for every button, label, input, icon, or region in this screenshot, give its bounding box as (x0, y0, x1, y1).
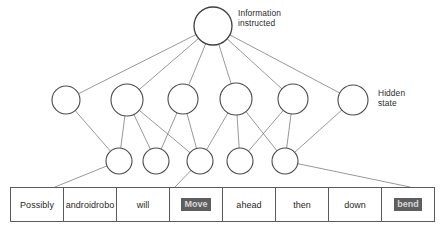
word-text: down (344, 200, 366, 210)
information-instructed-layer-node-1 (194, 7, 232, 45)
hidden-state-label: Hidden state (378, 88, 405, 109)
intermediate-layer-node-3 (187, 148, 213, 174)
word-cell-5[interactable]: ahead (223, 188, 276, 221)
word-cell-4[interactable]: Move (170, 188, 223, 221)
intermediate-layer-node-5 (272, 148, 298, 174)
hidden-state-layer-node-4 (220, 83, 252, 115)
word-cell-1[interactable]: Possibly (11, 188, 64, 221)
hidden-state-nodes (52, 83, 368, 116)
word-text: ahead (236, 200, 261, 210)
hidden-state-layer-node-2 (111, 84, 143, 116)
intermediate-layer-node-1 (106, 148, 132, 174)
word-cell-3[interactable]: will (117, 188, 170, 221)
hidden-state-layer-node-6 (338, 85, 368, 115)
intermediate-layer-node-2 (143, 148, 169, 174)
word-cell-7[interactable]: down (329, 188, 382, 221)
information-instructed-label: Information instructed (238, 8, 281, 29)
word-text: Possibly (20, 200, 54, 210)
word-text: then (293, 200, 311, 210)
hidden-state-layer-node-3 (168, 84, 198, 114)
word-cell-6[interactable]: then (276, 188, 329, 221)
diagram-canvas: Information instructed Hidden state Poss… (0, 0, 448, 237)
word-text: androidrobo (66, 200, 115, 210)
word-cell-8[interactable]: bend (382, 188, 434, 221)
word-text-highlighted: Move (181, 198, 210, 211)
input-word-sequence-table: PossiblyandroidrobowillMoveaheadthendown… (10, 187, 435, 222)
hidden-state-layer-node-5 (278, 84, 308, 114)
edges-hidden-to-intermediate (75, 110, 342, 153)
information-instructed-nodes (194, 7, 232, 45)
hidden-state-layer-node-1 (52, 86, 80, 114)
word-text: will (137, 200, 150, 210)
word-cell-2[interactable]: androidrobo (64, 188, 117, 221)
intermediate-nodes (106, 148, 298, 174)
intermediate-layer-node-4 (227, 148, 253, 174)
word-text-highlighted: bend (394, 198, 422, 211)
